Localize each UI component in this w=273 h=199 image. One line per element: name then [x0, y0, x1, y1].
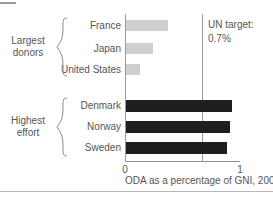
bar-japan: [126, 43, 153, 54]
bar-united-states: [126, 64, 140, 75]
un-target-value: 0.7%: [208, 32, 254, 46]
brace-largest-donors: [56, 17, 68, 77]
group-label-highest-line1: Highest: [0, 115, 56, 127]
x-axis-title: ODA as a percentage of GNI, 2002: [125, 175, 273, 186]
bottom-divider: [0, 191, 273, 192]
group-label-highest-effort: Highest effort: [0, 115, 56, 139]
group-label-largest-donors: Largest donors: [0, 35, 56, 59]
un-target-reference-line: [202, 14, 203, 162]
x-tick-label-1: 1: [230, 164, 250, 175]
bar-france: [126, 20, 168, 31]
y-axis-line: [125, 14, 126, 162]
group-label-largest-line1: Largest: [0, 35, 56, 47]
chart-container: France Japan United States Denmark Norwa…: [0, 0, 273, 199]
group-label-highest-line2: effort: [0, 127, 56, 139]
bar-denmark: [126, 100, 232, 112]
un-target-annotation: UN target: 0.7%: [208, 18, 254, 46]
x-axis-line: [125, 161, 240, 162]
group-label-largest-line2: donors: [0, 47, 56, 59]
un-target-label: UN target:: [208, 18, 254, 32]
x-tick-label-0: 0: [115, 164, 135, 175]
brace-highest-effort: [56, 97, 68, 157]
bar-norway: [126, 121, 230, 133]
bar-sweden: [126, 142, 227, 154]
